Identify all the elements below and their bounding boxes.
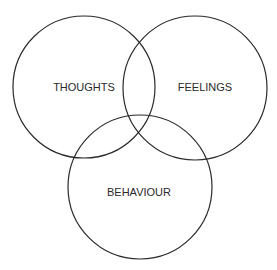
feelings-label: FEELINGS [178,81,232,93]
thoughts-label: THOUGHTS [53,81,115,93]
venn-diagram: THOUGHTS FEELINGS BEHAVIOUR [0,0,277,270]
behaviour-label: BEHAVIOUR [107,186,171,198]
